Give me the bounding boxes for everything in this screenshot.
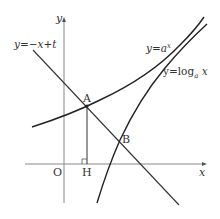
x-axis-label: x (199, 166, 206, 179)
y-axis-label: y (55, 12, 63, 25)
point-H-label: H (82, 166, 92, 179)
exponential-label: y=ax (145, 42, 171, 54)
logarithm-label-arg: x (198, 65, 207, 77)
point-A-label: A (82, 92, 92, 105)
logarithm-label-main: y=log (162, 65, 194, 77)
point-B-label: B (122, 133, 130, 146)
logarithm-label: y=loga x (162, 65, 208, 80)
function-diagram: y x O H A B y=−x+t y=ax y=loga x (0, 0, 220, 219)
line-label: y=−x+t (13, 38, 57, 50)
line-y-neg-x-plus-t (33, 50, 179, 205)
origin-label: O (53, 166, 62, 179)
right-angle-mark (82, 159, 87, 164)
exponential-label-exponent: x (167, 42, 171, 50)
exponential-label-main: y=a (145, 42, 167, 54)
